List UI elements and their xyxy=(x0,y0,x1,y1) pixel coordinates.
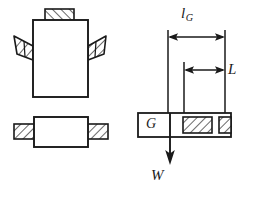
dimensioned-view-outer-pad xyxy=(219,117,231,133)
front-view-right-pad xyxy=(88,36,106,60)
left-pad-body xyxy=(14,36,33,60)
dimensioned-view xyxy=(138,30,231,165)
technical-diagram xyxy=(0,0,254,200)
right-pad-body xyxy=(88,36,106,60)
dimension-L-arrow xyxy=(184,66,225,73)
center-of-gravity-label: G xyxy=(146,117,156,131)
dimension-L-label: L xyxy=(228,62,236,77)
front-view xyxy=(14,9,106,97)
weight-force-label: W xyxy=(151,168,164,183)
dimensioned-view-inner-pad xyxy=(183,117,212,133)
figure-canvas: lG L G W xyxy=(0,0,254,200)
front-view-body xyxy=(33,20,88,97)
front-view-left-pad xyxy=(14,36,33,60)
dimension-lg-arrow xyxy=(168,33,225,40)
dimension-lg-label: lG xyxy=(181,6,193,23)
plan-view-body xyxy=(34,117,88,147)
plan-view xyxy=(14,117,108,147)
